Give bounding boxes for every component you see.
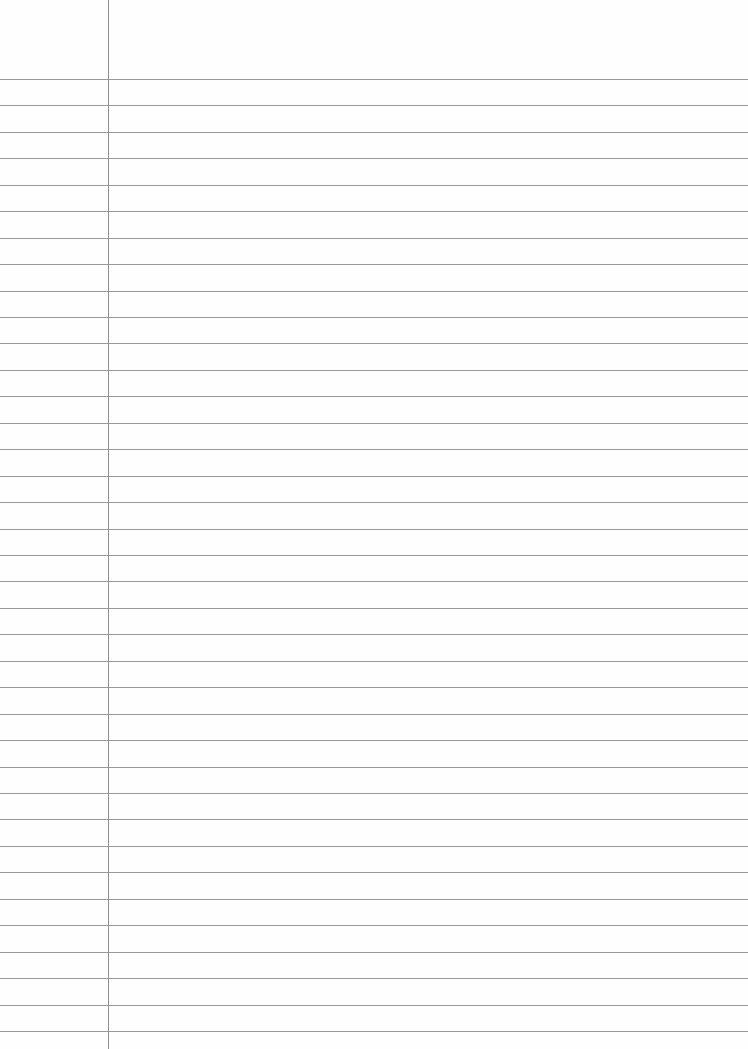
ruled-line	[0, 502, 748, 503]
ruled-line	[0, 317, 748, 318]
ruled-line	[0, 396, 748, 397]
ruled-line	[0, 555, 748, 556]
ruled-line	[0, 185, 748, 186]
ruled-line	[0, 158, 748, 159]
margin-line	[108, 0, 109, 1049]
ruled-line	[0, 211, 748, 212]
ruled-line	[0, 978, 748, 979]
ruled-line	[0, 449, 748, 450]
ruled-line	[0, 529, 748, 530]
ruled-line	[0, 1005, 748, 1006]
ruled-line	[0, 370, 748, 371]
ruled-line	[0, 819, 748, 820]
ruled-line	[0, 899, 748, 900]
ruled-line	[0, 661, 748, 662]
ruled-line	[0, 343, 748, 344]
ruled-line	[0, 952, 748, 953]
ruled-line	[0, 687, 748, 688]
ruled-line	[0, 872, 748, 873]
ruled-line	[0, 79, 748, 80]
lined-paper-sheet	[0, 0, 748, 1049]
ruled-line	[0, 423, 748, 424]
ruled-line	[0, 846, 748, 847]
ruled-line	[0, 581, 748, 582]
ruled-line	[0, 634, 748, 635]
ruled-line	[0, 793, 748, 794]
ruled-line	[0, 264, 748, 265]
ruled-line	[0, 1031, 748, 1032]
ruled-line	[0, 767, 748, 768]
ruled-line	[0, 476, 748, 477]
ruled-line	[0, 925, 748, 926]
ruled-line	[0, 740, 748, 741]
ruled-line	[0, 132, 748, 133]
ruled-line	[0, 714, 748, 715]
ruled-line	[0, 291, 748, 292]
ruled-line	[0, 608, 748, 609]
ruled-line	[0, 105, 748, 106]
ruled-line	[0, 238, 748, 239]
